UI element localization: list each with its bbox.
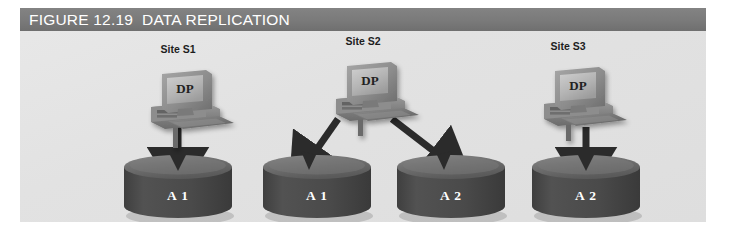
arrow-s2-a2: [392, 119, 444, 159]
diagram-graphics: [20, 31, 706, 222]
arrow-group: [178, 119, 586, 162]
figure-header-bar: FIGURE 12.19 DATA REPLICATION: [20, 8, 706, 31]
database-label-db-3: A 2: [440, 188, 462, 204]
site-label-s3: Site S3: [550, 40, 585, 52]
site-label-s1: Site S1: [160, 43, 195, 55]
arrow-s2-a1: [310, 119, 338, 159]
screen-text-s3: DP: [569, 78, 586, 94]
screen-text-s2: DP: [361, 73, 378, 89]
database-label-db-2: A 1: [306, 188, 328, 204]
figure-container: FIGURE 12.19 DATA REPLICATION: [20, 8, 706, 222]
site-label-s2: Site S2: [345, 35, 380, 47]
diagram-canvas: Site S1 Site S2 Site S3 DP DP DP A 1 A 1…: [20, 31, 706, 222]
database-label-db-4: A 2: [575, 188, 597, 204]
figure-title: DATA REPLICATION: [142, 11, 290, 29]
figure-number: FIGURE 12.19: [29, 11, 133, 29]
arrowhead-overlay-group: [170, 151, 594, 171]
database-label-db-1: A 1: [167, 188, 189, 204]
screen-text-s1: DP: [176, 81, 193, 97]
